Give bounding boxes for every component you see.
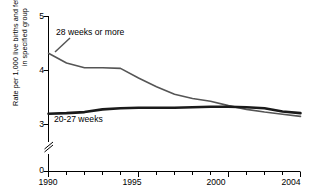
axes [44,16,301,177]
x-axis-ticks [49,172,301,178]
y-axis-break-icon [45,142,54,154]
chart-figure: Rate per 1,000 live births and fetal dea… [0,0,312,196]
series-leader-line-28-weeks [55,38,70,52]
chart-plot-area [0,0,312,196]
data-series-group [49,53,301,116]
line-20-27-weeks [49,107,301,114]
